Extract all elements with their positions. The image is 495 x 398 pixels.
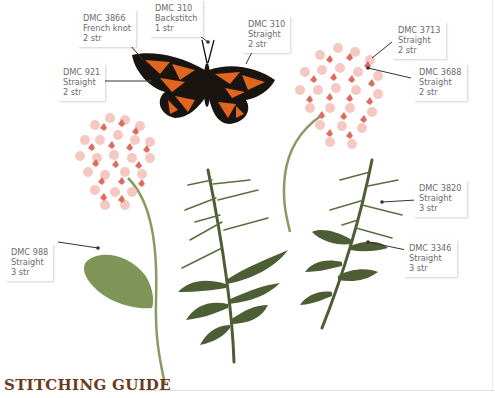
page-edge-divider (140, 390, 495, 391)
thread-code: DMC 310 (248, 19, 285, 29)
strand-count: 1 str (155, 23, 198, 33)
label-dmc988: DMC 988 Straight 3 str (6, 244, 53, 281)
stitch-type: Straight (409, 253, 452, 263)
strand-count: 3 str (409, 263, 452, 273)
strand-count: 2 str (248, 39, 285, 49)
right-plant (300, 160, 402, 328)
thread-code: DMC 921 (63, 67, 100, 77)
left-leaf (84, 255, 153, 309)
stitch-type: Straight (11, 257, 48, 267)
thread-code: DMC 3820 (419, 183, 462, 193)
stitch-type: Backstitch (155, 13, 198, 23)
label-dmc921: DMC 921 Straight 2 str (58, 64, 105, 101)
stitch-type: Straight (419, 193, 462, 203)
thread-code: DMC 3866 (83, 13, 131, 23)
label-dmc3713: DMC 3713 Straight 2 str (393, 22, 446, 59)
thread-code: DMC 3688 (419, 67, 462, 77)
left-flower-cluster (75, 113, 155, 210)
label-dmc310-straight: DMC 310 Straight 2 str (243, 16, 290, 53)
right-flower-cluster (295, 43, 383, 149)
stitch-type: Straight (419, 77, 462, 87)
strand-count: 3 str (11, 267, 48, 277)
label-dmc310-backstitch: DMC 310 Backstitch 1 str (150, 0, 203, 37)
strand-count: 2 str (398, 45, 441, 55)
stitch-type: Straight (63, 77, 100, 87)
thread-code: DMC 988 (11, 247, 48, 257)
strand-count: 2 str (419, 87, 462, 97)
page-title: STITCHING GUIDE (4, 376, 171, 394)
page-edge-right (492, 0, 493, 390)
middle-plant (178, 170, 288, 362)
label-dmc3346: DMC 3346 Straight 3 str (404, 240, 457, 277)
label-dmc3688: DMC 3688 Straight 2 str (414, 64, 467, 101)
label-dmc3866: DMC 3866 French knot 2 str (78, 10, 136, 47)
strand-count: 3 str (419, 203, 462, 213)
right-flower-stem (284, 115, 322, 232)
strand-count: 2 str (83, 33, 131, 43)
stitch-type: Straight (398, 35, 441, 45)
label-dmc3820: DMC 3820 Straight 3 str (414, 180, 467, 217)
thread-code: DMC 3713 (398, 25, 441, 35)
thread-code: DMC 310 (155, 3, 198, 13)
strand-count: 2 str (63, 87, 100, 97)
stitch-type: French knot (83, 23, 131, 33)
thread-code: DMC 3346 (409, 243, 452, 253)
stitch-type: Straight (248, 29, 285, 39)
